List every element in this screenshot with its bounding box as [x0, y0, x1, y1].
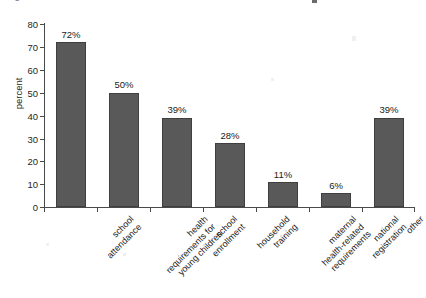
- y-tick-40: [40, 116, 44, 117]
- x-tick-1: [97, 207, 98, 212]
- y-axis-title: percent: [13, 64, 24, 124]
- x-tick-2: [150, 207, 151, 212]
- scan-speckle: [123, 253, 126, 256]
- y-tick-label-50: 50: [27, 88, 38, 99]
- bar-other: [374, 118, 404, 207]
- bar-value-maternal-health-requirements: 11%: [263, 169, 303, 180]
- x-tick-4: [256, 207, 257, 212]
- x-label-national-registration: national registration: [362, 214, 408, 260]
- x-tick-3: [203, 207, 204, 212]
- y-tick-80: [40, 24, 44, 25]
- bar-value-school-enrollment: 39%: [157, 104, 197, 115]
- y-tick-label-10: 10: [27, 179, 38, 190]
- y-tick-10: [40, 184, 44, 185]
- bar-value-school-attendance: 72%: [51, 29, 91, 40]
- bar-value-health-requirements: 50%: [104, 79, 144, 90]
- scan-speckle: [352, 36, 356, 41]
- bar-value-other: 39%: [369, 104, 409, 115]
- y-tick-label-80: 80: [27, 19, 38, 30]
- x-label-school-attendance: school attendance: [97, 214, 143, 260]
- bar-value-household-training: 28%: [210, 130, 250, 141]
- x-tick-7: [414, 207, 415, 212]
- y-tick-50: [40, 93, 44, 94]
- y-tick-60: [40, 70, 44, 71]
- y-tick-30: [40, 139, 44, 140]
- y-axis-line: [44, 23, 45, 208]
- bar-household-training: [215, 143, 245, 207]
- y-tick-label-30: 30: [27, 134, 38, 145]
- y-tick-label-40: 40: [27, 111, 38, 122]
- bar-health-requirements: [109, 93, 139, 207]
- scan-speckle: [46, 243, 49, 246]
- x-label-other: other: [404, 214, 426, 236]
- x-tick-5: [309, 207, 310, 212]
- x-tick-6: [362, 207, 363, 212]
- x-tick-0: [44, 207, 45, 212]
- y-tick-label-60: 60: [27, 65, 38, 76]
- y-tick-label-0: 0: [33, 202, 38, 213]
- y-tick-20: [40, 161, 44, 162]
- x-axis-line: [43, 207, 415, 208]
- bar-maternal-health-requirements: [268, 182, 298, 207]
- bar-school-enrollment: [162, 118, 192, 207]
- y-tick-label-70: 70: [27, 42, 38, 53]
- bar-value-national-registration: 6%: [316, 180, 356, 191]
- y-tick-70: [40, 47, 44, 48]
- bar-national-registration: [321, 193, 351, 207]
- y-tick-label-20: 20: [27, 156, 38, 167]
- scan-speckle: [271, 78, 274, 81]
- bar-school-attendance: [56, 42, 86, 207]
- x-label-household-training: household training: [255, 214, 299, 258]
